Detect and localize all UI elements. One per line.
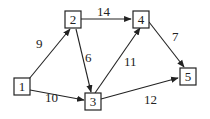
node-2: 2	[65, 11, 81, 28]
svg-text:5: 5	[185, 69, 192, 84]
node-1: 1	[14, 78, 30, 95]
node-4: 4	[133, 11, 149, 28]
node-5: 5	[180, 68, 196, 85]
svg-text:4: 4	[138, 12, 145, 27]
weight-1-3: 10	[45, 90, 58, 105]
edge-4-5	[149, 22, 184, 67]
svg-text:1: 1	[19, 79, 26, 94]
weight-2-4: 14	[97, 4, 111, 19]
graph-diagram: 9 10 14 6 11 7 12 1 2 3 4 5	[0, 0, 210, 119]
weight-3-4: 11	[124, 54, 137, 69]
svg-text:3: 3	[90, 94, 97, 109]
weight-3-5: 12	[144, 92, 157, 107]
node-3: 3	[85, 93, 101, 110]
svg-text:2: 2	[70, 12, 77, 27]
weight-1-2: 9	[36, 36, 43, 51]
weight-2-3: 6	[85, 50, 92, 65]
weight-4-5: 7	[172, 29, 179, 44]
edge-3-5	[101, 78, 178, 99]
